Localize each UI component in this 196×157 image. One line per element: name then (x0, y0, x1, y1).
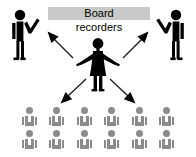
audience-notch (83, 139, 86, 145)
audience-arm-icon (22, 117, 24, 125)
audience-notch (165, 139, 168, 145)
audience-notch (28, 139, 31, 145)
audience-arm-icon (172, 117, 174, 125)
audience-head-icon (26, 130, 33, 137)
audience-row (22, 130, 174, 150)
audience-arm-icon (145, 140, 147, 148)
audience-arm-icon (77, 117, 79, 125)
audience-arm-icon (77, 140, 79, 148)
audience-arm-icon (62, 117, 64, 125)
central-speaker-figure (76, 38, 120, 91)
audience-notch (28, 116, 31, 122)
audience-arm-icon (104, 117, 106, 125)
audience-arm-icon (90, 140, 92, 148)
audience-figure (104, 130, 119, 150)
audience-figure (159, 130, 174, 150)
arrow-up-right (123, 32, 149, 59)
audience-figure (49, 107, 64, 127)
audience-figure (132, 130, 147, 150)
audience-arm-icon (172, 140, 174, 148)
audience-arm-icon (49, 117, 51, 125)
audience-arm-icon (62, 140, 64, 148)
audience-arm-icon (35, 140, 37, 148)
audience-grid (22, 107, 174, 153)
audience-figure (22, 107, 37, 127)
audience-head-icon (81, 107, 88, 114)
audience-arm-icon (132, 117, 134, 125)
audience-arm-icon (117, 117, 119, 125)
audience-arm-icon (117, 140, 119, 148)
audience-head-icon (108, 130, 115, 137)
audience-figure (77, 107, 92, 127)
page-title-line1: Board (48, 6, 150, 20)
audience-notch (138, 116, 141, 122)
audience-notch (83, 116, 86, 122)
arrow-down-right (110, 79, 136, 104)
arrow-up-left (48, 32, 74, 59)
audience-head-icon (163, 130, 170, 137)
audience-arm-icon (104, 140, 106, 148)
audience-figure (132, 107, 147, 127)
audience-figure (159, 107, 174, 127)
audience-head-icon (26, 107, 33, 114)
audience-head-icon (136, 130, 143, 137)
audience-notch (55, 139, 58, 145)
audience-figure (77, 130, 92, 150)
audience-head-icon (81, 130, 88, 137)
audience-figure (104, 107, 119, 127)
audience-arm-icon (132, 140, 134, 148)
audience-head-icon (136, 107, 143, 114)
audience-notch (110, 139, 113, 145)
page-title-line2: recorders (48, 20, 150, 34)
audience-arm-icon (35, 117, 37, 125)
arrow-down-left (61, 79, 87, 104)
audience-head-icon (53, 130, 60, 137)
audience-arm-icon (145, 117, 147, 125)
audience-arm-icon (22, 140, 24, 148)
audience-arm-icon (49, 140, 51, 148)
audience-head-icon (163, 107, 170, 114)
audience-head-icon (108, 107, 115, 114)
audience-notch (165, 116, 168, 122)
audience-notch (138, 139, 141, 145)
audience-arm-icon (90, 117, 92, 125)
audience-figure (49, 130, 64, 150)
audience-row (22, 107, 174, 127)
audience-arm-icon (159, 140, 161, 148)
audience-figure (22, 130, 37, 150)
left-standing-figure (12, 10, 40, 60)
audience-arm-icon (159, 117, 161, 125)
audience-notch (110, 116, 113, 122)
audience-notch (55, 116, 58, 122)
board-recorders-diagram: Board recorders (0, 0, 196, 157)
audience-head-icon (53, 107, 60, 114)
right-standing-figure (156, 10, 184, 60)
